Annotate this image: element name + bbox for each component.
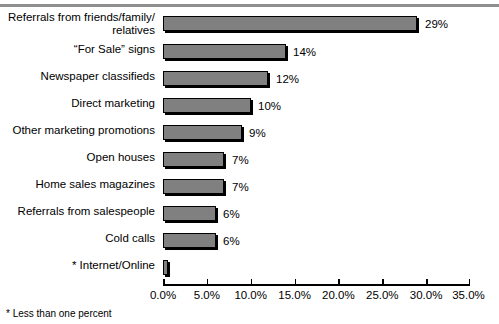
bar-value-label: 6% bbox=[223, 207, 240, 221]
bar-value-label: 10% bbox=[258, 99, 281, 113]
chart-row: Newspaper classifieds 12% bbox=[0, 67, 499, 89]
chart-footnote: * Less than one percent bbox=[6, 308, 112, 320]
chart-row: Home sales magazines 7% bbox=[0, 175, 499, 197]
axis-tick bbox=[469, 279, 471, 284]
axis-tick-label: 30.0% bbox=[403, 289, 449, 302]
chart-row: Referrals from salespeople 6% bbox=[0, 202, 499, 224]
bar-segment bbox=[163, 98, 251, 113]
axis-tick bbox=[295, 279, 297, 284]
bar-segment bbox=[163, 179, 224, 194]
category-label: “For Sale” signs bbox=[0, 43, 155, 56]
bar-segment bbox=[163, 206, 216, 221]
chart-row: “For Sale” signs 14% bbox=[0, 40, 499, 62]
category-label: Home sales magazines bbox=[0, 178, 155, 191]
category-label: Referrals from friends/family/ relatives bbox=[0, 11, 155, 37]
chart-row: Direct marketing 10% bbox=[0, 94, 499, 116]
category-label: Referrals from salespeople bbox=[0, 205, 155, 218]
axis-tick-label: 0.0% bbox=[140, 289, 186, 302]
horizontal-bar-chart: Referrals from friends/family/ relatives… bbox=[0, 0, 499, 324]
axis-tick bbox=[382, 279, 384, 284]
axis-tick bbox=[251, 279, 253, 284]
bar-segment bbox=[163, 125, 242, 140]
chart-row: * Internet/Online bbox=[0, 256, 499, 278]
axis-tick bbox=[207, 279, 209, 284]
category-label: Direct marketing bbox=[0, 97, 155, 110]
bar-value-label: 12% bbox=[276, 72, 299, 86]
chart-row: Cold calls 6% bbox=[0, 229, 499, 251]
bar-value-label: 9% bbox=[249, 126, 266, 140]
chart-row: Open houses 7% bbox=[0, 148, 499, 170]
category-label: * Internet/Online bbox=[0, 259, 155, 272]
bar-value-label: 14% bbox=[293, 45, 316, 59]
chart-row: Referrals from friends/family/ relatives… bbox=[0, 12, 499, 34]
bar-value-label: 6% bbox=[223, 234, 240, 248]
chart-row: Other marketing promotions 9% bbox=[0, 121, 499, 143]
axis-tick bbox=[163, 279, 165, 284]
axis-tick bbox=[338, 279, 340, 284]
bar-segment bbox=[163, 233, 216, 248]
bar-segment bbox=[163, 44, 286, 59]
bar-value-label: 7% bbox=[232, 153, 249, 167]
axis-tick-label: 10.0% bbox=[228, 289, 274, 302]
axis-tick-label: 5.0% bbox=[184, 289, 230, 302]
category-label: Cold calls bbox=[0, 232, 155, 245]
category-label: Other marketing promotions bbox=[0, 124, 155, 137]
axis-tick-label: 25.0% bbox=[359, 289, 405, 302]
bar-value-label: 29% bbox=[425, 17, 448, 31]
axis-tick-label: 35.0% bbox=[446, 289, 492, 302]
bar-segment bbox=[163, 260, 168, 275]
category-label: Newspaper classifieds bbox=[0, 70, 155, 83]
axis-tick-label: 15.0% bbox=[272, 289, 318, 302]
bar-value-label: 7% bbox=[232, 180, 249, 194]
bar-segment bbox=[163, 152, 224, 167]
axis-tick bbox=[426, 279, 428, 284]
category-label: Open houses bbox=[0, 151, 155, 164]
x-axis-line bbox=[163, 284, 470, 286]
axis-tick-label: 20.0% bbox=[315, 289, 361, 302]
bar-segment bbox=[163, 16, 417, 31]
bar-segment bbox=[163, 71, 268, 86]
